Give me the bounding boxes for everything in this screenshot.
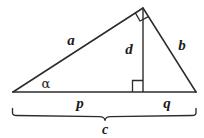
label-angle-alpha: α: [42, 77, 51, 90]
triangle-side-b-line: [143, 8, 196, 92]
label-base-c: c: [102, 123, 108, 137]
label-altitude-d: d: [125, 42, 133, 57]
geometry-figure: a b d p q c α: [0, 0, 204, 138]
label-side-a: a: [67, 33, 75, 48]
triangle-diagram-svg: [0, 0, 204, 138]
label-segment-p: p: [76, 96, 84, 111]
right-angle-marker-foot-icon: [133, 81, 144, 93]
brace-left-half: [13, 109, 106, 121]
triangle-side-a-line: [13, 8, 143, 92]
brace-right-half: [105, 109, 196, 121]
label-side-b: b: [178, 38, 186, 53]
label-segment-q: q: [163, 96, 171, 111]
